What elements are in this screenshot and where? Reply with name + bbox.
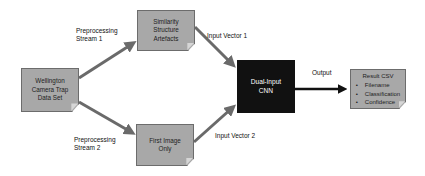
label-stream-2-line-2: Stream 2 bbox=[74, 144, 116, 152]
label-output: Output bbox=[312, 69, 332, 77]
node-first-image: First Image Only bbox=[136, 124, 194, 166]
node-similarity-line-2: Structure bbox=[153, 26, 179, 35]
result-field-item: Classification bbox=[356, 90, 400, 98]
label-stream-1: Preprocessing Stream 1 bbox=[76, 27, 118, 44]
node-dataset-line-2: Camera Trap bbox=[32, 86, 69, 95]
result-field-item: Filename bbox=[356, 81, 400, 89]
label-stream-1-line-1: Preprocessing bbox=[76, 27, 118, 35]
label-vector-1: Input Vector 1 bbox=[207, 32, 247, 40]
node-dataset-line-1: Wellington bbox=[35, 77, 64, 86]
label-stream-1-line-2: Stream 1 bbox=[76, 35, 118, 43]
node-similarity-line-1: Similarity bbox=[153, 18, 179, 27]
result-fields-list: Filename Classification Confidence bbox=[356, 81, 400, 105]
node-dataset: Wellington Camera Trap Data Set bbox=[21, 68, 79, 112]
node-result-csv: Result CSV Filename Classification Confi… bbox=[350, 69, 406, 109]
node-cnn: Dual-Input CNN bbox=[237, 60, 295, 113]
node-first-image-line-1: First Image bbox=[149, 137, 181, 146]
result-field-item: Confidence bbox=[356, 98, 400, 106]
label-stream-2: Preprocessing Stream 2 bbox=[74, 136, 116, 153]
label-stream-2-line-1: Preprocessing bbox=[74, 136, 116, 144]
arrow-stream-1 bbox=[79, 44, 132, 78]
node-cnn-line-2: CNN bbox=[259, 87, 273, 96]
node-result-title: Result CSV bbox=[362, 72, 393, 80]
node-first-image-line-2: Only bbox=[159, 145, 172, 154]
node-dataset-line-3: Data Set bbox=[38, 94, 63, 103]
node-similarity: Similarity Structure Artefacts bbox=[137, 10, 195, 51]
arrow-stream-2 bbox=[79, 102, 131, 132]
node-similarity-line-3: Artefacts bbox=[154, 35, 179, 44]
label-vector-2: Input Vector 2 bbox=[215, 132, 255, 140]
node-cnn-line-1: Dual-Input bbox=[251, 78, 281, 87]
